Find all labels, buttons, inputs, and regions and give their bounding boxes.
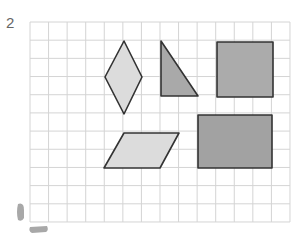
- parallelogram-shape: [104, 133, 179, 168]
- rhombus-shape: [105, 41, 142, 114]
- shape-grid-diagram: [0, 0, 304, 246]
- right-triangle-shape: [161, 41, 198, 96]
- gray-marks: [17, 204, 48, 233]
- rectangle-shape: [198, 115, 272, 168]
- vertical-gray-mark: [17, 204, 24, 221]
- square-shape: [217, 42, 273, 97]
- horizontal-gray-mark: [29, 226, 47, 233]
